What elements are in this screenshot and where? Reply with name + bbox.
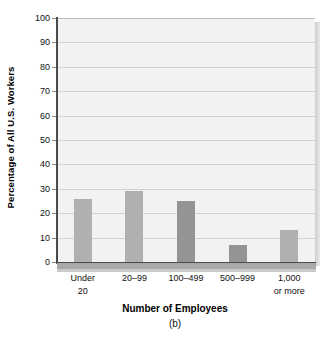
bar-body (74, 199, 92, 262)
y-axis-tick-label: 40 (40, 159, 50, 169)
y-axis-tick-label: 100 (35, 13, 50, 23)
bar-chart-figure: Percentage of All U.S. Workers 100908070… (0, 0, 333, 339)
x-axis-tick-labels: Under 2020–99100–499500–9991,000 or more (57, 272, 315, 302)
bar (177, 201, 195, 262)
panel-label: (b) (30, 318, 320, 329)
bar-series (57, 18, 315, 262)
y-axis-tick-label: 50 (40, 135, 50, 145)
bar (229, 245, 247, 262)
y-axis-title: Percentage of All U.S. Workers (0, 0, 22, 275)
bar-body (280, 230, 298, 262)
bar (280, 230, 298, 262)
x-axis-tick-label: 20–99 (109, 272, 161, 285)
y-axis-tick-label: 30 (40, 184, 50, 194)
y-axis-tick-labels: 1009080706050403020100 (24, 18, 50, 262)
x-axis-tick-label: 500–999 (212, 272, 264, 285)
y-axis-tick-label: 80 (40, 62, 50, 72)
y-axis-tick-label: 20 (40, 208, 50, 218)
y-axis-tick-label: 60 (40, 111, 50, 121)
bar (74, 199, 92, 262)
x-axis-tick-label: 1,000 or more (263, 272, 315, 297)
y-axis-tick-label: 70 (40, 86, 50, 96)
x-axis-tick-label: 100–499 (160, 272, 212, 285)
y-axis-tick-label: 10 (40, 233, 50, 243)
y-axis-title-text: Percentage of All U.S. Workers (6, 67, 17, 209)
y-axis-tick-label: 90 (40, 37, 50, 47)
plot-area-right-shadow (315, 22, 320, 266)
y-axis-tick-label: 0 (45, 257, 50, 267)
bar-body (177, 201, 195, 262)
x-axis-tick-label: Under 20 (57, 272, 109, 297)
bar-body (229, 245, 247, 262)
x-axis-title: Number of Employees (30, 303, 320, 314)
bar (125, 191, 143, 262)
y-axis-line (56, 17, 58, 263)
bar-body (125, 191, 143, 262)
